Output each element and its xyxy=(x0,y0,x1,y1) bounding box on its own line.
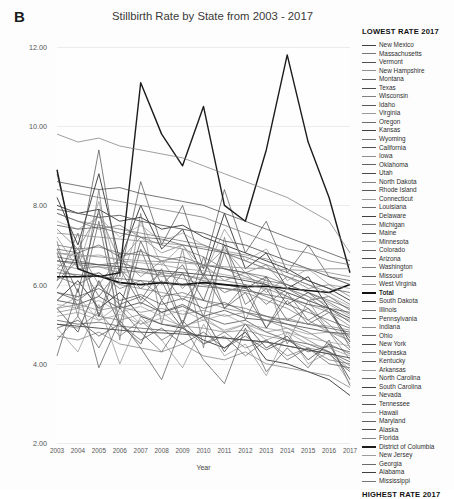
legend-item[interactable]: Georgia xyxy=(362,460,454,469)
legend-item[interactable]: West Virginia xyxy=(362,280,454,289)
legend-label: Utah xyxy=(379,169,393,178)
legend-item[interactable]: Arkansas xyxy=(362,366,454,375)
legend-swatch-line-icon xyxy=(362,421,376,422)
legend: LOWEST RATE 2017 New MexicoMassachusetts… xyxy=(362,27,454,499)
legend-label: Nebraska xyxy=(379,349,406,358)
legend-label: Texas xyxy=(379,84,396,93)
legend-item[interactable]: Pennsylvania xyxy=(362,315,454,324)
legend-swatch-line-icon xyxy=(362,130,376,131)
legend-item[interactable]: Virginia xyxy=(362,109,454,118)
legend-entries: New MexicoMassachusettsVermontNew Hampsh… xyxy=(362,41,454,485)
legend-item[interactable]: Indiana xyxy=(362,323,454,332)
legend-item[interactable]: Wisconsin xyxy=(362,92,454,101)
legend-item[interactable]: Iowa xyxy=(362,152,454,161)
legend-item[interactable]: Texas xyxy=(362,84,454,93)
legend-item[interactable]: New Hampshire xyxy=(362,67,454,76)
legend-label: Alabama xyxy=(379,468,404,477)
legend-swatch-line-icon xyxy=(362,53,376,54)
legend-label: Delaware xyxy=(379,212,406,221)
legend-label: Georgia xyxy=(379,460,402,469)
legend-item[interactable]: Delaware xyxy=(362,212,454,221)
legend-item[interactable]: Illinois xyxy=(362,306,454,315)
legend-item[interactable]: Kentucky xyxy=(362,357,454,366)
x-axis-tick: 2016 xyxy=(322,447,336,454)
legend-item[interactable]: Mississippi xyxy=(362,477,454,486)
panel-letter: B xyxy=(14,8,25,25)
legend-item[interactable]: South Carolina xyxy=(362,383,454,392)
legend-label: Iowa xyxy=(379,152,393,161)
x-axis-tick: 2005 xyxy=(92,447,106,454)
legend-label: Nevada xyxy=(379,391,401,400)
legend-item[interactable]: Oregon xyxy=(362,118,454,127)
y-axis-labels: 2.004.006.008.0010.0012.00 xyxy=(0,47,53,443)
legend-label: Total xyxy=(379,289,394,298)
legend-item[interactable]: Michigan xyxy=(362,220,454,229)
legend-swatch-line-icon xyxy=(362,481,376,482)
legend-item[interactable]: North Carolina xyxy=(362,374,454,383)
legend-item[interactable]: California xyxy=(362,144,454,153)
legend-item[interactable]: Connecticut xyxy=(362,195,454,204)
legend-item[interactable]: Oklahoma xyxy=(362,161,454,170)
legend-label: Indiana xyxy=(379,323,400,332)
legend-item[interactable]: Total xyxy=(362,289,454,298)
legend-item[interactable]: North Dakota xyxy=(362,178,454,187)
legend-item[interactable]: Washington xyxy=(362,263,454,272)
legend-item[interactable]: Ohio xyxy=(362,332,454,341)
x-axis-tick: 2014 xyxy=(280,447,294,454)
legend-item[interactable]: Idaho xyxy=(362,101,454,110)
legend-swatch-line-icon xyxy=(362,344,376,345)
legend-item[interactable]: New York xyxy=(362,340,454,349)
legend-item[interactable]: Utah xyxy=(362,169,454,178)
legend-item[interactable]: Hawaii xyxy=(362,409,454,418)
legend-item[interactable]: South Dakota xyxy=(362,297,454,306)
legend-swatch-line-icon xyxy=(362,472,376,473)
legend-item[interactable]: Vermont xyxy=(362,58,454,67)
x-axis-tick: 2010 xyxy=(196,447,210,454)
legend-label: Mississippi xyxy=(379,477,410,486)
legend-item[interactable]: Arizona xyxy=(362,255,454,264)
legend-swatch-line-icon xyxy=(362,412,376,413)
legend-label: West Virginia xyxy=(379,280,416,289)
x-axis-tick: 2003 xyxy=(50,447,64,454)
legend-item[interactable]: Nebraska xyxy=(362,349,454,358)
legend-swatch-line-icon xyxy=(362,156,376,157)
x-axis-tick: 2017 xyxy=(343,447,357,454)
legend-item[interactable]: Alabama xyxy=(362,468,454,477)
legend-item[interactable]: Missouri xyxy=(362,272,454,281)
legend-item[interactable]: Colorado xyxy=(362,246,454,255)
legend-label: Arizona xyxy=(379,255,401,264)
legend-item[interactable]: Maryland xyxy=(362,417,454,426)
legend-item[interactable]: Florida xyxy=(362,434,454,443)
legend-item[interactable]: Louisiana xyxy=(362,203,454,212)
legend-item[interactable]: Wyoming xyxy=(362,135,454,144)
legend-swatch-line-icon xyxy=(362,233,376,234)
legend-item[interactable]: New Mexico xyxy=(362,41,454,50)
legend-swatch-line-icon xyxy=(362,241,376,242)
legend-swatch-line-icon xyxy=(362,216,376,217)
series-lines xyxy=(57,47,350,443)
legend-swatch-line-icon xyxy=(362,139,376,140)
legend-swatch-line-icon xyxy=(362,113,376,114)
legend-swatch-line-icon xyxy=(362,96,376,97)
legend-item[interactable]: Massachusetts xyxy=(362,50,454,59)
legend-item[interactable]: Rhode Island xyxy=(362,186,454,195)
legend-item[interactable]: New Jersey xyxy=(362,451,454,460)
legend-label: South Carolina xyxy=(379,383,421,392)
legend-item[interactable]: District of Columbia xyxy=(362,443,454,452)
legend-item[interactable]: Nevada xyxy=(362,391,454,400)
legend-swatch-line-icon xyxy=(362,79,376,80)
legend-swatch-line-icon xyxy=(362,301,376,302)
legend-item[interactable]: Alaska xyxy=(362,426,454,435)
legend-label: Hawaii xyxy=(379,409,398,418)
legend-item[interactable]: Montana xyxy=(362,75,454,84)
legend-item[interactable]: Minnesota xyxy=(362,238,454,247)
legend-label: Kansas xyxy=(379,126,400,135)
legend-item[interactable]: Kansas xyxy=(362,126,454,135)
legend-item[interactable]: Tennessee xyxy=(362,400,454,409)
legend-label: North Carolina xyxy=(379,374,420,383)
legend-swatch-line-icon xyxy=(362,292,376,294)
y-axis-tick: 8.00 xyxy=(33,201,47,210)
legend-swatch-line-icon xyxy=(362,395,376,396)
legend-item[interactable]: Maine xyxy=(362,229,454,238)
legend-label: Virginia xyxy=(379,109,400,118)
